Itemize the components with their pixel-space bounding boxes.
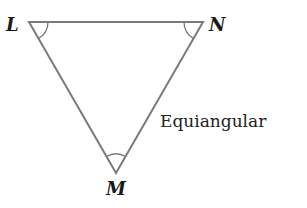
vertex-label-n: N <box>209 16 225 34</box>
triangle-lmn <box>29 22 203 173</box>
angle-mark-n <box>184 22 194 39</box>
angle-mark-m <box>107 154 126 157</box>
equiangular-triangle-figure: L N M Equiangular <box>0 0 307 208</box>
vertex-label-m: M <box>106 180 126 198</box>
triangle-classification-label: Equiangular <box>160 113 266 130</box>
triangle-drawing <box>0 0 307 208</box>
angle-mark-l <box>39 22 49 39</box>
vertex-label-l: L <box>6 16 19 34</box>
